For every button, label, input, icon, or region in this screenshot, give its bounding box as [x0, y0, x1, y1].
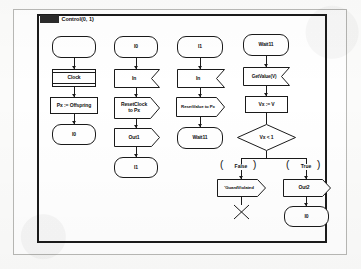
diagram-canvas: Clock Px := Offspring I0 I0 In Rese [37, 14, 327, 243]
guard-false-paren-left: ( [220, 160, 223, 170]
node-output-out2-label: Out2 [283, 179, 325, 197]
node-getvalue-label: GetValue(V) [243, 67, 285, 86]
node-input-in-col2-label: In [114, 69, 154, 88]
node-assign-px-label: Px := Offspring [51, 98, 97, 113]
node-state-i1-col3[interactable]: I1 [177, 36, 223, 58]
guard-true-paren-left: ( [286, 160, 289, 170]
node-state-i0-col4[interactable]: I0 [284, 206, 329, 227]
node-state-i0-col1[interactable]: I0 [52, 124, 96, 145]
connector-decision-stem [266, 151, 267, 158]
connector-c4-assign-to-decision [266, 113, 267, 124]
node-state-i1-col3-label: I1 [178, 37, 222, 57]
node-state-i1-col2[interactable]: I1 [114, 157, 158, 178]
node-assign-px[interactable]: Px := Offspring [50, 97, 98, 114]
node-output-out1-label: Out1 [114, 128, 154, 147]
node-state-i0-col2-label: I0 [115, 37, 157, 57]
guard-false: False [227, 161, 255, 170]
node-state-wait11-col3[interactable]: Wait11 [177, 127, 223, 149]
scanned-page: processControl(0, 1) Clock Px := Offspri… [0, 0, 361, 269]
guard-false-paren-right: ) [253, 160, 256, 170]
connector-branch-bar [241, 158, 307, 159]
guard-true-paren-right: ) [317, 160, 320, 170]
node-stop-cross[interactable] [233, 204, 250, 220]
node-decision-vx-lt-1-label: Vx < 1 [237, 124, 296, 151]
node-state-i0-col1-label: I0 [53, 125, 95, 144]
node-guardviolated-label: 'GuardViolated [217, 179, 261, 197]
node-start-state[interactable] [52, 36, 96, 58]
node-state-wait11-col4-label: Wait11 [244, 35, 288, 55]
node-state-i0-col4-label: I0 [285, 207, 328, 226]
node-assign-vx-label: Vx := V [246, 97, 287, 112]
node-state-wait11-col3-label: Wait11 [178, 128, 222, 148]
node-start-state-label [53, 37, 95, 57]
node-clock-timer[interactable]: Clock [52, 69, 96, 87]
node-input-in-col3-label: In [177, 69, 219, 88]
node-resetvalue-col3-label: ResetValue to Px [176, 97, 220, 117]
node-state-i0-col2[interactable]: I0 [114, 36, 158, 58]
node-state-wait11-col4[interactable]: Wait11 [243, 34, 289, 56]
guard-true: True [293, 161, 319, 170]
node-resetclock-col2-label: ResetClock to Px [114, 97, 154, 119]
guard-false-label: False [235, 163, 248, 169]
node-clock-label: Clock [53, 70, 95, 86]
node-state-i1-col2-label: I1 [115, 158, 157, 177]
node-assign-vx[interactable]: Vx := V [245, 96, 288, 113]
guard-true-label: True [301, 163, 312, 169]
